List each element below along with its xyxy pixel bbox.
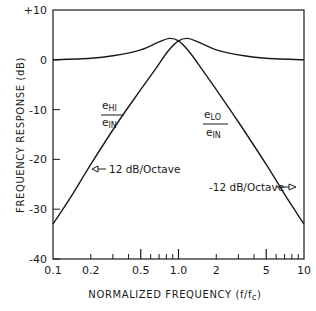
y-tick-label: -40	[29, 253, 47, 266]
x-tick-label: 2	[213, 264, 220, 277]
annotation-minus-12db-octave: -12 dB/Octave	[209, 181, 296, 193]
x-axis-ticks: 0.10.20.51.02510	[44, 249, 311, 277]
x-axis-title: NORMALIZED FREQUENCY (f/fc)	[88, 289, 261, 302]
y-tick-label: 0	[40, 54, 47, 67]
frequency-response-chart: 0.10.20.51.02510 +100-10-20-30-40 FREQUE…	[0, 0, 316, 311]
curve-elo	[53, 38, 304, 224]
response-curves	[53, 38, 304, 224]
x-tick-label: 5	[263, 264, 270, 277]
series-label-hi: eHI eIN	[101, 99, 124, 130]
annotation-12db-octave: 12 dB/Octave	[92, 163, 180, 175]
y-axis-title: FREQUENCY RESPONSE (dB)	[15, 57, 26, 213]
y-tick-label: -20	[29, 153, 47, 166]
svg-text:eLO: eLO	[204, 108, 221, 122]
x-tick-label: 0.2	[82, 264, 100, 277]
svg-text:eIN: eIN	[102, 116, 117, 130]
svg-text:eHI: eHI	[102, 99, 117, 113]
x-tick-label: 10	[297, 264, 311, 277]
svg-text:eIN: eIN	[206, 126, 221, 140]
curve-ehi	[53, 38, 304, 224]
y-axis-ticks: +100-10-20-30-40	[24, 4, 60, 266]
x-tick-label: 0.5	[132, 264, 150, 277]
y-tick-label: -10	[29, 104, 47, 117]
y-tick-label: +10	[24, 4, 47, 17]
plot-frame	[53, 10, 304, 259]
svg-text:12 dB/Octave: 12 dB/Octave	[109, 163, 180, 175]
svg-text:-12 dB/Octave: -12 dB/Octave	[209, 181, 284, 193]
series-label-lo: eLO eIN	[203, 108, 228, 140]
x-tick-label: 1.0	[170, 264, 188, 277]
y-tick-label: -30	[29, 203, 47, 216]
